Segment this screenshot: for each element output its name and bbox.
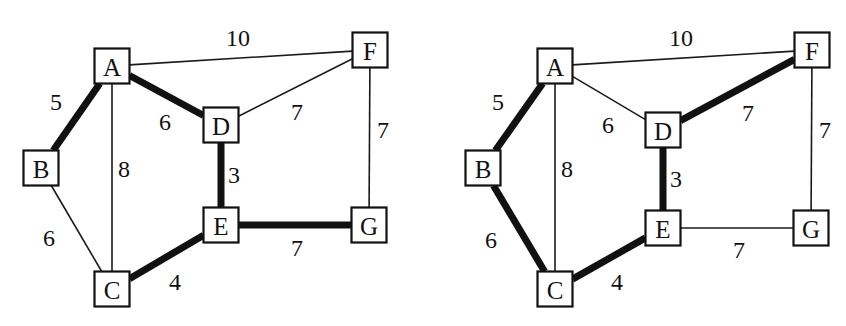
- edge-weight-a-f: 10: [669, 25, 693, 51]
- edge-weight-d-e: 3: [228, 162, 240, 188]
- edge-weight-b-c: 6: [485, 227, 497, 253]
- node-label-f: F: [805, 38, 819, 65]
- node-label-g: G: [802, 216, 820, 243]
- edge-weight-b-c: 6: [43, 225, 55, 251]
- node-label-b: B: [33, 156, 50, 183]
- node-label-a: A: [103, 54, 121, 81]
- edge-c-e: [130, 235, 204, 278]
- edge-weight-a-b: 5: [492, 89, 504, 115]
- edge-weight-e-g: 7: [291, 235, 303, 261]
- edge-a-f: [573, 51, 795, 65]
- edge-b-c: [493, 186, 544, 272]
- edge-weight-a-c: 8: [118, 156, 130, 182]
- edge-f-g: [369, 68, 370, 208]
- edge-b-c: [51, 186, 101, 272]
- node-g: G: [794, 211, 829, 246]
- node-e: E: [646, 211, 681, 246]
- edge-weight-e-g: 7: [733, 237, 745, 263]
- node-label-e: E: [213, 213, 228, 240]
- edge-weight-a-c: 8: [561, 156, 573, 182]
- node-label-b: B: [475, 156, 492, 183]
- node-d: D: [204, 108, 239, 143]
- node-e: E: [204, 208, 239, 243]
- node-b: B: [24, 151, 59, 186]
- graph-figure: ABCDEFG10586643777 ABCDEFG10586643777: [0, 0, 846, 326]
- edge-weight-c-e: 4: [611, 269, 623, 295]
- node-label-g: G: [360, 213, 378, 240]
- left-graph-canvas: ABCDEFG10586643777: [0, 0, 423, 326]
- edge-weight-a-d: 6: [602, 112, 614, 138]
- edge-c-e: [573, 238, 646, 279]
- node-b: B: [466, 151, 501, 186]
- node-c: C: [538, 272, 573, 307]
- edge-weight-a-b: 5: [50, 89, 62, 115]
- right-graph-canvas: ABCDEFG10586643777: [423, 0, 846, 326]
- node-label-c: C: [547, 277, 564, 304]
- edge-f-g: [811, 68, 812, 211]
- node-d: D: [646, 113, 681, 148]
- node-a: A: [538, 49, 573, 84]
- node-a: A: [95, 49, 130, 84]
- node-label-a: A: [546, 54, 564, 81]
- edge-weight-c-e: 4: [169, 269, 181, 295]
- edge-weight-a-d: 6: [159, 109, 171, 135]
- node-label-e: E: [655, 216, 670, 243]
- node-f: F: [353, 33, 388, 68]
- edge-weight-a-f: 10: [226, 25, 250, 51]
- right-graph-panel: ABCDEFG10586643777: [423, 0, 846, 326]
- edge-weight-f-g: 7: [819, 117, 831, 143]
- left-graph-panel: ABCDEFG10586643777: [0, 0, 423, 326]
- node-g: G: [352, 208, 387, 243]
- edge-weight-d-f: 7: [742, 100, 754, 126]
- edge-a-f: [130, 51, 353, 65]
- node-c: C: [95, 272, 130, 307]
- node-f: F: [795, 33, 830, 68]
- node-label-f: F: [363, 38, 377, 65]
- edge-weight-d-f: 7: [291, 99, 303, 125]
- node-label-d: D: [654, 118, 672, 145]
- node-label-d: D: [212, 113, 230, 140]
- edge-weight-f-g: 7: [377, 117, 389, 143]
- node-label-c: C: [104, 277, 121, 304]
- edge-weight-d-e: 3: [670, 166, 682, 192]
- edge-d-f: [681, 59, 795, 120]
